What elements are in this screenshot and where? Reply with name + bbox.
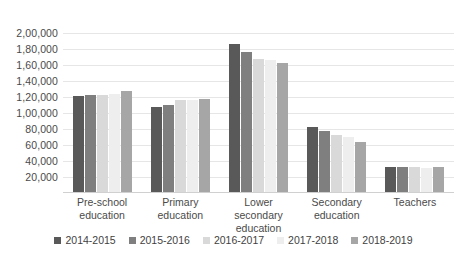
bar[interactable] <box>187 100 198 193</box>
bar[interactable] <box>421 168 432 193</box>
y-tick-label: 80,000 <box>25 123 58 135</box>
legend-label: 2018-2019 <box>362 234 412 246</box>
legend-item[interactable]: 2015-2016 <box>129 234 190 246</box>
bar[interactable] <box>253 59 264 193</box>
legend-swatch-icon <box>54 237 61 244</box>
legend-swatch-icon <box>129 237 136 244</box>
legend-item[interactable]: 2018-2019 <box>351 234 412 246</box>
y-tick-label: 1,20,000 <box>16 91 58 103</box>
bar[interactable] <box>319 131 330 193</box>
legend-swatch-icon <box>351 237 358 244</box>
bar[interactable] <box>229 44 240 193</box>
bar[interactable] <box>265 60 276 193</box>
legend-label: 2017-2018 <box>288 234 338 246</box>
y-tick-label: 60,000 <box>25 139 58 151</box>
y-tick-label: 1,80,000 <box>16 43 58 55</box>
bar-groups <box>63 33 454 193</box>
y-tick-label: 1,00,000 <box>16 107 58 119</box>
bar-group <box>141 33 219 193</box>
bar-chart: 2,00,0001,80,0001,60,0001,40,0001,20,000… <box>0 0 467 270</box>
legend-label: 2016-2017 <box>214 234 264 246</box>
x-axis-labels: Pre-school educationPrimary educationLow… <box>63 196 454 235</box>
y-tick-label: 1,40,000 <box>16 75 58 87</box>
x-axis-category-label: Secondary education <box>298 196 376 235</box>
y-tick-label: 20,000 <box>25 171 58 183</box>
bar[interactable] <box>73 96 84 193</box>
x-axis-line <box>63 192 454 193</box>
legend-swatch-icon <box>203 237 210 244</box>
bar[interactable] <box>175 100 186 193</box>
legend-item[interactable]: 2017-2018 <box>277 234 338 246</box>
chart-legend: 2014-20152015-20162016-20172017-20182018… <box>0 234 467 246</box>
plot-area <box>63 33 454 193</box>
bar[interactable] <box>409 167 420 193</box>
legend-item[interactable]: 2016-2017 <box>203 234 264 246</box>
bar[interactable] <box>241 52 252 193</box>
x-axis-category-label: Pre-school education <box>63 196 141 235</box>
bar[interactable] <box>397 167 408 193</box>
bar[interactable] <box>277 63 288 193</box>
bar[interactable] <box>85 95 96 193</box>
bar[interactable] <box>163 105 174 193</box>
legend-item[interactable]: 2014-2015 <box>54 234 115 246</box>
x-axis-category-label: Lower secondary education <box>219 196 297 235</box>
bar[interactable] <box>121 91 132 193</box>
y-axis: 2,00,0001,80,0001,60,0001,40,0001,20,000… <box>0 33 58 193</box>
legend-swatch-icon <box>277 237 284 244</box>
y-tick-label: 1,60,000 <box>16 59 58 71</box>
x-axis-category-label: Primary education <box>141 196 219 235</box>
bar[interactable] <box>151 107 162 193</box>
bar[interactable] <box>109 94 120 193</box>
bar-group <box>219 33 297 193</box>
x-axis-category-label: Teachers <box>376 196 454 235</box>
bar-group <box>376 33 454 193</box>
bar[interactable] <box>97 95 108 193</box>
y-tick-label: 2,00,000 <box>16 27 58 39</box>
bar[interactable] <box>385 167 396 193</box>
legend-label: 2015-2016 <box>140 234 190 246</box>
bar[interactable] <box>343 137 354 193</box>
bar[interactable] <box>307 127 318 193</box>
bar-group <box>298 33 376 193</box>
bar[interactable] <box>433 167 444 193</box>
bar[interactable] <box>355 142 366 193</box>
bar[interactable] <box>331 135 342 193</box>
y-tick-label: 40,000 <box>25 155 58 167</box>
bar[interactable] <box>199 99 210 193</box>
legend-label: 2014-2015 <box>65 234 115 246</box>
bar-group <box>63 33 141 193</box>
